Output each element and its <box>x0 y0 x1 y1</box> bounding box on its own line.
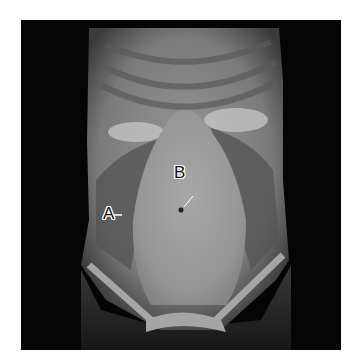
label-a: A <box>103 205 114 222</box>
label-b: B <box>174 164 185 181</box>
anatomy-photo <box>21 20 341 350</box>
umbilicus <box>179 208 184 213</box>
torso-illustration <box>21 20 341 350</box>
